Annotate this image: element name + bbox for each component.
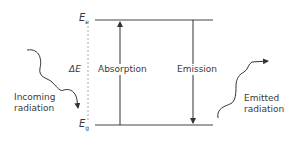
emitted-radiation-label: Emitted radiation [244, 93, 284, 115]
emission-label: Emission [176, 64, 218, 75]
incoming-radiation-label: Incoming radiation [14, 92, 56, 114]
excited-level-label: Ee [79, 12, 89, 25]
energy-gap-label: ΔE [69, 64, 81, 75]
absorption-label: Absorption [97, 64, 148, 75]
ground-level-label: Eg [79, 118, 89, 131]
